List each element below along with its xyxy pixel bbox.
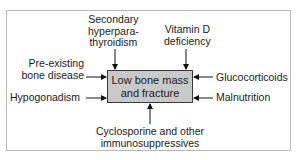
label-secondary-hyperparathyroidism: Secondary hyperpara- thyroidism bbox=[88, 14, 139, 49]
label-hypogonadism: Hypogonadism bbox=[10, 92, 80, 104]
center-node-low-bone-mass: Low bone mass and fracture bbox=[107, 70, 193, 103]
label-vitamin-d-deficiency: Vitamin D deficiency bbox=[164, 24, 211, 47]
label-pre-existing-bone-disease: Pre-existing bone disease bbox=[10, 58, 84, 81]
label-malnutrition: Malnutrition bbox=[216, 92, 270, 104]
label-cyclosporine: Cyclosporine and other immunosuppressive… bbox=[93, 126, 207, 149]
label-glucocorticoids: Glucocorticoids bbox=[216, 72, 288, 84]
